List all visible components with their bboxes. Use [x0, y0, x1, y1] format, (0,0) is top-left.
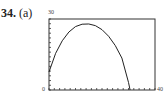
plot [0, 0, 167, 98]
data-curve [49, 24, 130, 90]
